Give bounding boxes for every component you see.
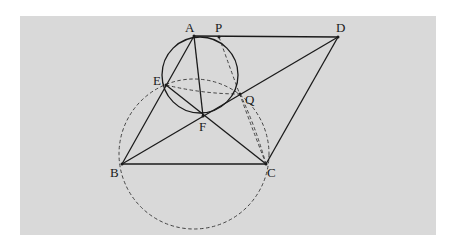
- point-f: [202, 115, 205, 118]
- label-e: E: [153, 73, 161, 88]
- point-d: [337, 36, 340, 39]
- point-p: [218, 36, 221, 39]
- label-a: A: [185, 20, 195, 35]
- geometry-diagram: A P D E Q F B C: [0, 0, 456, 247]
- point-e: [165, 84, 168, 87]
- label-q: Q: [245, 92, 255, 107]
- label-b: B: [110, 165, 119, 180]
- label-p: P: [215, 20, 222, 35]
- label-d: D: [336, 20, 345, 35]
- label-c: C: [267, 165, 276, 180]
- point-q: [239, 93, 242, 96]
- label-f: F: [199, 119, 206, 134]
- point-b: [121, 163, 124, 166]
